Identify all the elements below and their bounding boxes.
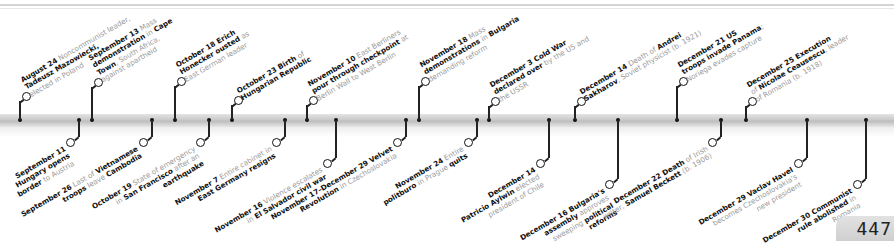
event-label: September 13 Massdemonstration in CapeTo… bbox=[87, 10, 183, 85]
top-rule-secondary bbox=[0, 8, 894, 9]
event-connector bbox=[865, 120, 867, 179]
event-highlight-text: December 3 Cold War bbox=[488, 38, 568, 90]
event-ring-icon bbox=[196, 138, 205, 147]
event-connector bbox=[806, 120, 808, 158]
event-label: October 23 Birth ofHungarian Republic bbox=[236, 48, 313, 102]
event-ring-icon bbox=[464, 138, 473, 147]
timeline-axis bbox=[0, 114, 894, 127]
event-connector bbox=[418, 86, 420, 120]
event-ring-icon bbox=[708, 138, 717, 147]
event-connector bbox=[488, 106, 490, 120]
event-ring-icon bbox=[393, 138, 402, 147]
event-highlight-text: pour through checkpoint bbox=[310, 38, 402, 96]
event-ring-icon bbox=[536, 159, 545, 168]
event-connector bbox=[208, 120, 210, 137]
event-ring-icon bbox=[272, 138, 281, 147]
event-connector bbox=[19, 101, 21, 120]
event-connector bbox=[335, 120, 337, 158]
timeline-axis-shadow bbox=[0, 127, 894, 137]
event-connector bbox=[91, 87, 93, 120]
event-connector bbox=[476, 120, 478, 137]
event-connector bbox=[574, 106, 576, 120]
event-connector bbox=[78, 120, 80, 137]
event-label: October 18 ErichHonecker ousted asEast G… bbox=[174, 23, 255, 84]
event-label: December 14Patricio Aylwin electedpresid… bbox=[456, 166, 546, 232]
event-connector bbox=[174, 86, 176, 120]
event-label: November 10 East Berlinerspour through c… bbox=[306, 26, 414, 103]
event-connector bbox=[284, 120, 286, 137]
event-connector bbox=[617, 120, 619, 179]
event-ring-icon bbox=[605, 180, 614, 189]
event-text: becomes Czechoslovakia's bbox=[711, 172, 799, 228]
event-ring-icon bbox=[794, 159, 803, 168]
event-ring-icon bbox=[66, 138, 75, 147]
event-connector bbox=[306, 105, 308, 120]
page-number: 447 bbox=[856, 218, 892, 239]
event-connector bbox=[405, 120, 407, 137]
event-connector bbox=[231, 105, 233, 120]
event-ring-icon bbox=[139, 138, 148, 147]
event-connector bbox=[548, 120, 550, 158]
top-rule bbox=[0, 4, 894, 6]
event-highlight-text: December 22 Death bbox=[612, 158, 686, 206]
event-highlight-text: Bulgaria bbox=[487, 14, 521, 39]
event-ring-icon bbox=[323, 159, 332, 168]
event-connector bbox=[676, 86, 678, 120]
event-connector bbox=[745, 106, 747, 120]
event-label: December 22 Death of Irishwriter, Samuel… bbox=[598, 145, 714, 222]
event-connector bbox=[151, 120, 153, 137]
event-ring-icon bbox=[853, 180, 862, 189]
event-label: October 19 State of emergencyin San Fran… bbox=[91, 145, 206, 226]
event-connector bbox=[720, 120, 722, 137]
